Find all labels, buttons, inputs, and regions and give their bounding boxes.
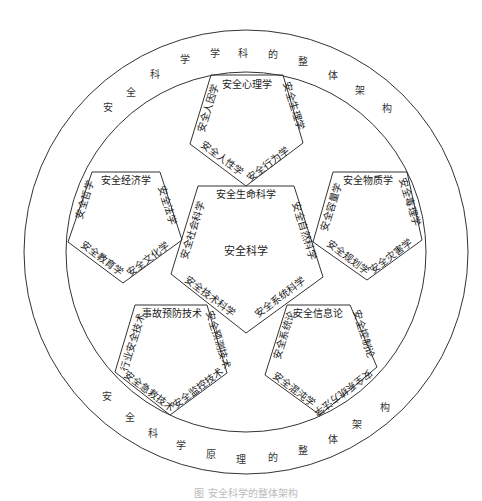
ring-char: 科 — [238, 47, 248, 59]
pentagon-top: 安全心理学 安全人因学 安全生理学 安全人性学 安全行为学 — [190, 75, 307, 186]
pentagon-bottom-right-label-lower-right: 安全系统方法学 — [312, 367, 375, 419]
pentagon-left: 安全经济学 安全哲学 安全法学 安全教育学 安全文化学 — [68, 172, 182, 283]
ring-char: 学 — [176, 439, 186, 451]
ring-char: 全 — [125, 411, 135, 423]
pentagon-right-label-lower-left: 安全规划学 — [325, 237, 372, 277]
pentagon-bottom-right-label-upper-left: 安全系统论 — [270, 309, 296, 360]
pentagon-bottom-left-label-lower-left: 安全急救技术 — [122, 368, 177, 414]
ring-char: 体 — [328, 70, 338, 81]
ring-char: 科 — [150, 68, 160, 80]
pentagon-center-label-top: 安全生命科学 — [216, 188, 276, 200]
pentagon-top-label-lower-right: 安全行为学 — [244, 144, 291, 184]
ring-char: 学 — [210, 47, 220, 59]
ring-char: 全 — [126, 86, 136, 98]
pentagon-right-label-upper-left: 安全容量学 — [317, 181, 343, 232]
pentagon-right-label-top: 安全物质学 — [343, 174, 393, 186]
ring-char: 体 — [328, 434, 338, 445]
pentagon-top-label-lower-left: 安全人性学 — [199, 138, 246, 178]
pentagon-top-label-upper-right: 安全生理学 — [281, 80, 307, 131]
pentagon-left-label-lower-left: 安全教育学 — [79, 238, 126, 278]
pentagon-bottom-left-label-upper-left: 行业安全技术 — [117, 312, 146, 373]
pentagon-bottom-right: 安全信息论 安全系统论 安全控制论 安全混沌学 安全系统方法学 — [265, 305, 377, 419]
ring-char: 理 — [236, 454, 246, 465]
ring-char: 学 — [180, 53, 190, 65]
ring-char: 构 — [380, 401, 390, 413]
ring-char: 整 — [298, 55, 308, 67]
figure-caption: 图 安全科学的整体架构 — [194, 487, 297, 499]
pentagon-right-label-lower-right: 安全灾害学 — [367, 236, 414, 276]
ring-char: 整 — [298, 444, 308, 456]
ring-char: 架 — [352, 419, 362, 430]
pentagon-left-label-top: 安全经济学 — [101, 174, 151, 186]
pentagon-right: 安全物质学 安全容量学 安全毒理学 安全规划学 安全灾害学 — [313, 172, 423, 280]
pentagon-bottom-right-label-upper-right: 安全控制论 — [351, 308, 377, 359]
ring-char: 的 — [268, 48, 278, 60]
ring-char: 安 — [103, 101, 113, 113]
pentagon-center-label-upper-right: 安全自然科学 — [290, 200, 319, 261]
pentagon-bottom-left-label-lower-right: 安全监控技术 — [170, 365, 225, 411]
pentagon-bottom-right-label-top: 安全信息论 — [293, 307, 343, 319]
ring-char: 安 — [102, 390, 112, 402]
pentagon-bottom-left-label-top: 事故预防技术 — [142, 307, 202, 319]
pentagon-left-label-lower-right: 安全文化学 — [124, 239, 171, 279]
pentagon-bottom-left: 事故预防技术 行业安全技术 安全预测技术 安全急救技术 安全监控技术 — [115, 305, 233, 415]
ring-char: 构 — [382, 102, 392, 114]
pentagon-left-label-upper-left: 安全哲学 — [72, 179, 95, 221]
ring-char: 科 — [148, 427, 158, 439]
ring-char: 架 — [355, 85, 365, 96]
pentagon-center-label-upper-left: 安全社会科学 — [177, 200, 206, 261]
pentagon-top-label-top: 安全心理学 — [222, 78, 272, 90]
pentagon-bottom-right-label-lower-left: 安全混沌学 — [271, 369, 318, 409]
center-label: 安全科学 — [224, 244, 268, 258]
pentagon-left-label-upper-right: 安全法学 — [156, 184, 179, 226]
ring-char: 的 — [268, 451, 278, 463]
pentagon-bottom-left-label-upper-right: 安全预测技术 — [204, 309, 233, 370]
ring-char: 原 — [206, 449, 216, 460]
pentagon-top-label-upper-left: 安全人因学 — [194, 82, 220, 133]
safety-science-diagram: 安 全 科 学 学 科 的 整 体 架 构 安 全 科 学 原 理 的 整 体 … — [0, 0, 482, 501]
